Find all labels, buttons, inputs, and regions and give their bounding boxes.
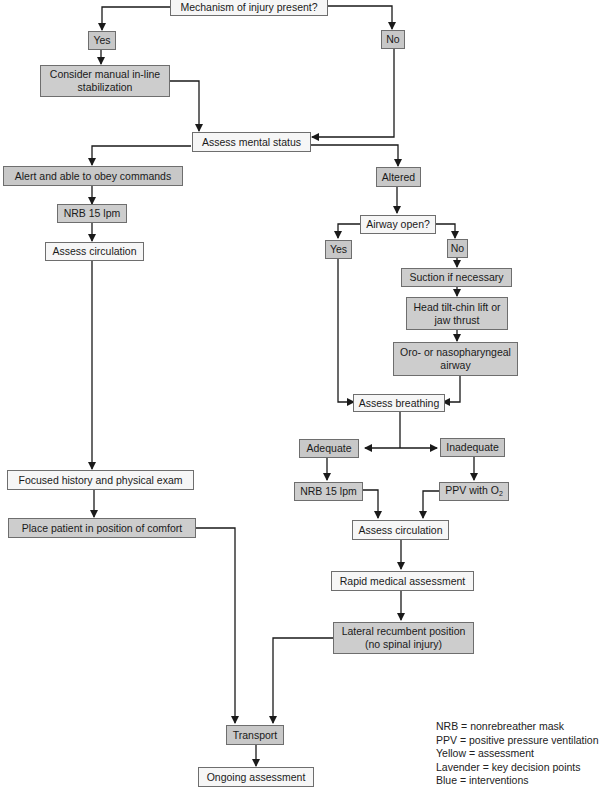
ppv-label: PPV with O2 bbox=[445, 484, 503, 500]
lateral-line-2: (no spinal injury) bbox=[365, 638, 442, 651]
node-alert: Alert and able to obey commands bbox=[3, 166, 183, 186]
stabilization-line-2: stabilization bbox=[78, 81, 133, 94]
legend-item-lavender: Lavender = key decision points bbox=[436, 761, 599, 775]
oro-line-1: Oro- or nasopharyngeal bbox=[400, 346, 511, 359]
node-manual-stabilization: Consider manual in-line stabilization bbox=[40, 65, 170, 97]
node-head-tilt: Head tilt-chin lift or jaw thrust bbox=[406, 297, 508, 330]
node-suction: Suction if necessary bbox=[401, 268, 512, 287]
node-airway-no: No bbox=[447, 239, 468, 258]
stabilization-line-1: Consider manual in-line bbox=[50, 68, 160, 81]
node-moi-no: No bbox=[381, 30, 405, 49]
node-mechanism-of-injury: Mechanism of injury present? bbox=[170, 0, 328, 16]
node-assess-breathing: Assess breathing bbox=[353, 394, 445, 412]
legend-item-nrb: NRB = nonrebreather mask bbox=[436, 720, 599, 734]
node-airway-open: Airway open? bbox=[360, 215, 436, 234]
head-tilt-line-2: jaw thrust bbox=[435, 314, 480, 327]
node-lateral-recumbent: Lateral recumbent position (no spinal in… bbox=[333, 622, 474, 654]
node-assess-circulation-left: Assess circulation bbox=[45, 242, 144, 261]
node-rapid-medical-assessment: Rapid medical assessment bbox=[331, 571, 474, 591]
node-oro-airway: Oro- or nasopharyngeal airway bbox=[393, 342, 518, 376]
node-inadequate: Inadequate bbox=[440, 438, 505, 457]
node-airway-yes: Yes bbox=[325, 240, 352, 259]
node-assess-mental-status: Assess mental status bbox=[192, 132, 311, 152]
node-nrb-left: NRB 15 lpm bbox=[57, 204, 127, 223]
legend-item-yellow: Yellow = assessment bbox=[436, 747, 599, 761]
node-ongoing-assessment: Ongoing assessment bbox=[198, 767, 314, 787]
head-tilt-line-1: Head tilt-chin lift or bbox=[414, 301, 501, 314]
legend-item-ppv: PPV = positive pressure ventilation bbox=[436, 734, 599, 748]
connector-lines bbox=[0, 0, 608, 796]
oro-line-2: airway bbox=[440, 359, 470, 372]
legend: NRB = nonrebreather mask PPV = positive … bbox=[436, 720, 599, 788]
legend-item-blue: Blue = interventions bbox=[436, 774, 599, 788]
node-altered: Altered bbox=[376, 167, 421, 187]
node-focused-history: Focused history and physical exam bbox=[7, 470, 194, 490]
node-nrb-right: NRB 15 lpm bbox=[294, 482, 363, 501]
node-moi-yes: Yes bbox=[88, 31, 116, 50]
node-ppv: PPV with O2 bbox=[439, 482, 509, 501]
node-assess-circulation-right: Assess circulation bbox=[352, 520, 449, 540]
node-transport: Transport bbox=[226, 725, 284, 745]
node-adequate: Adequate bbox=[299, 439, 359, 458]
node-position-comfort: Place patient in position of comfort bbox=[8, 518, 196, 538]
lateral-line-1: Lateral recumbent position bbox=[342, 625, 466, 638]
